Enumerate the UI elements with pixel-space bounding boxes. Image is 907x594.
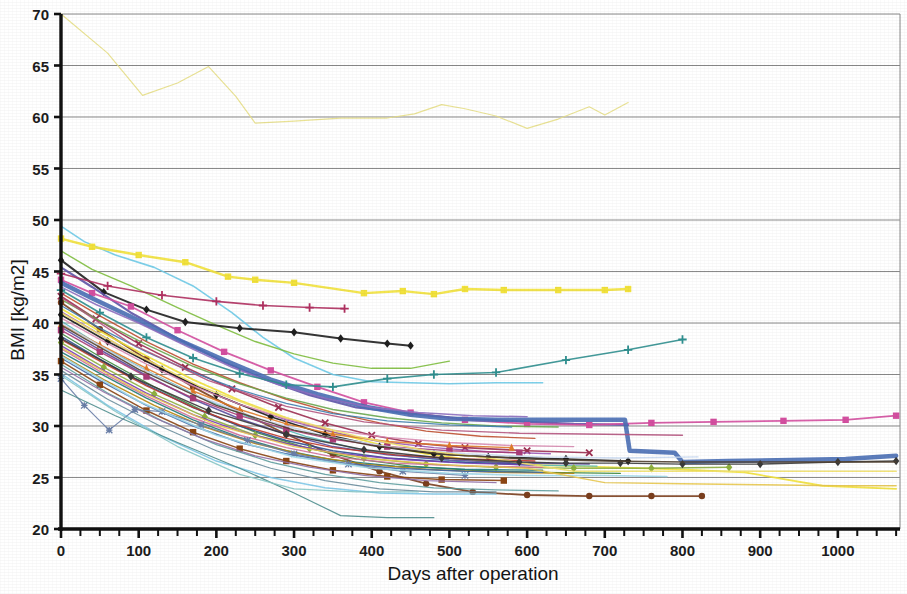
x-axis-tick-label: 0 bbox=[57, 542, 65, 559]
series-marker bbox=[221, 349, 227, 355]
x-axis-tick-label: 700 bbox=[592, 542, 617, 559]
x-axis-tick-label: 300 bbox=[282, 542, 307, 559]
series-marker bbox=[128, 303, 134, 309]
series-marker bbox=[842, 417, 848, 423]
series-marker bbox=[699, 493, 705, 499]
series-marker bbox=[400, 288, 406, 294]
x-axis-tick-label: 500 bbox=[437, 542, 462, 559]
series-marker bbox=[516, 450, 522, 456]
y-axis-tick-label: 40 bbox=[32, 315, 49, 332]
series-marker bbox=[586, 493, 592, 499]
y-axis-tick-label: 25 bbox=[32, 470, 49, 487]
series-marker bbox=[648, 420, 654, 426]
bmi-trajectory-chart: 2025303540455055606570010020030040050060… bbox=[0, 0, 907, 594]
x-axis-tick-label: 800 bbox=[670, 542, 695, 559]
series-marker bbox=[524, 492, 530, 498]
y-axis-title: BMI [kg/m2] bbox=[7, 259, 28, 360]
series-marker bbox=[81, 402, 87, 408]
y-axis-tick-label: 20 bbox=[32, 521, 49, 538]
series-marker bbox=[361, 290, 367, 296]
y-axis-tick-label: 45 bbox=[32, 264, 49, 281]
x-axis-tick-label: 200 bbox=[204, 542, 229, 559]
y-axis-tick-label: 30 bbox=[32, 418, 49, 435]
series-marker bbox=[431, 291, 437, 297]
series-marker bbox=[400, 468, 406, 474]
series-marker bbox=[174, 327, 180, 333]
series-marker bbox=[602, 287, 608, 293]
series-marker bbox=[252, 277, 258, 283]
series-marker bbox=[893, 413, 899, 419]
series-marker bbox=[423, 480, 429, 486]
series-marker bbox=[384, 473, 390, 479]
series-marker bbox=[268, 367, 274, 373]
y-axis-tick-label: 35 bbox=[32, 367, 49, 384]
series-marker bbox=[182, 259, 188, 265]
series-marker bbox=[291, 280, 297, 286]
x-axis-tick-label: 600 bbox=[515, 542, 540, 559]
y-axis-tick-label: 60 bbox=[32, 109, 49, 126]
series-marker bbox=[462, 286, 468, 292]
series-marker bbox=[135, 252, 141, 258]
y-axis-tick-label: 65 bbox=[32, 58, 49, 75]
series-marker bbox=[586, 422, 592, 428]
y-axis-tick-label: 55 bbox=[32, 161, 49, 178]
x-axis-tick-label: 900 bbox=[748, 542, 773, 559]
y-axis-tick-label: 70 bbox=[32, 6, 49, 23]
series-marker bbox=[780, 418, 786, 424]
series-marker bbox=[648, 493, 654, 499]
series-marker bbox=[106, 427, 112, 433]
chart-canvas: 2025303540455055606570010020030040050060… bbox=[0, 0, 907, 594]
series-marker bbox=[555, 287, 561, 293]
series-marker bbox=[225, 273, 231, 279]
series-marker bbox=[89, 244, 95, 250]
x-axis-title: Days after operation bbox=[387, 563, 558, 584]
x-axis-tick-label: 400 bbox=[359, 542, 384, 559]
series-marker bbox=[501, 477, 507, 483]
series-marker bbox=[438, 476, 444, 482]
series-marker bbox=[132, 406, 138, 412]
series-marker bbox=[625, 286, 631, 292]
series-marker bbox=[501, 287, 507, 293]
y-axis-tick-label: 50 bbox=[32, 212, 49, 229]
x-axis-tick-label: 1000 bbox=[821, 542, 854, 559]
series-marker bbox=[97, 349, 103, 355]
series-marker bbox=[710, 419, 716, 425]
chart-background bbox=[0, 0, 907, 594]
x-axis-tick-label: 100 bbox=[126, 542, 151, 559]
